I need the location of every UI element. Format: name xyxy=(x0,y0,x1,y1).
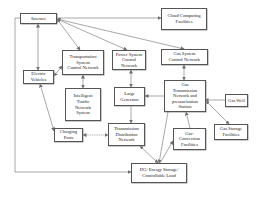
node-transportation-control-label: Transportation System Control Network xyxy=(67,54,98,71)
node-internet: Internet xyxy=(20,13,57,24)
node-dg-energy-storage-label: DG/ Energy Storage/ Controllable Load xyxy=(140,167,179,178)
node-gas-conversion: Gas- Conversion Facilities xyxy=(173,128,206,150)
node-transportation-control: Transportation System Control Network xyxy=(62,50,104,75)
node-cloud-computing-label: Cloud Computing Facilities xyxy=(167,13,200,24)
node-cloud-computing: Cloud Computing Facilities xyxy=(161,8,207,30)
edge-ev-charging xyxy=(40,84,54,131)
edge-gastrans-dg xyxy=(159,112,168,163)
node-gas-storage: Gas Storage Facilities xyxy=(214,124,248,140)
edge-ev-transport xyxy=(54,66,62,76)
node-electric-vehicles: Electric Vehicles xyxy=(23,70,54,84)
node-gas-well: Gas Well xyxy=(225,94,248,107)
node-internet-label: Internet xyxy=(31,16,45,22)
node-transmission-distribution-label: Transmission Distribution Network xyxy=(114,126,139,143)
node-gas-transmission: Gas Transmission Network and pressurizat… xyxy=(164,80,206,112)
node-transmission-distribution: Transmission Distribution Network xyxy=(108,123,145,146)
node-power-control-label: Power System Control Network xyxy=(116,52,142,69)
node-gas-conversion-label: Gas- Conversion Facilities xyxy=(179,131,200,148)
node-large-generator-label: Large Generator xyxy=(120,91,138,102)
node-gas-well-label: Gas Well xyxy=(228,98,245,104)
edge-tdn-dg xyxy=(140,146,158,163)
node-gas-control-label: Gas System Control Network xyxy=(169,51,200,62)
node-large-generator: Large Generator xyxy=(114,87,145,106)
node-intelligent-traffic-label: Intelligent Traffic Network System xyxy=(74,93,93,115)
node-gas-control: Gas System Control Network xyxy=(161,49,208,65)
node-charging-posts-label: Charging Posts xyxy=(60,129,77,140)
energy-network-diagram: Internet Cloud Computing Facilities Tran… xyxy=(0,0,262,197)
edge-dg-gasconv xyxy=(160,141,173,163)
node-dg-energy-storage: DG/ Energy Storage/ Controllable Load xyxy=(131,163,187,183)
node-intelligent-traffic: Intelligent Traffic Network System xyxy=(65,88,101,121)
node-charging-posts: Charging Posts xyxy=(54,128,83,142)
node-gas-storage-label: Gas Storage Facilities xyxy=(220,126,242,137)
node-gas-transmission-label: Gas Transmission Network and pressurizat… xyxy=(172,82,198,110)
node-electric-vehicles-label: Electric Vehicles xyxy=(31,71,47,82)
edge-gasconv-gastrans xyxy=(186,112,190,128)
node-power-control: Power System Control Network xyxy=(112,50,146,70)
edge-internet-power xyxy=(57,19,127,50)
